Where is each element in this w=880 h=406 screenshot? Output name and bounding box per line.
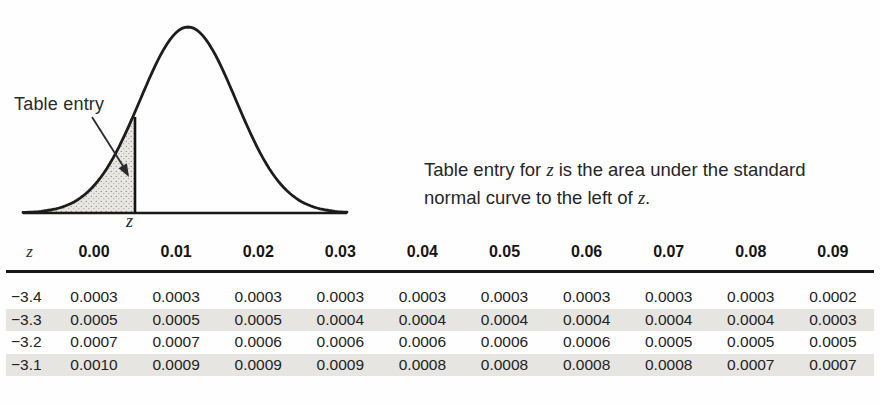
probability-cell: 0.0004 [710,309,792,332]
probability-cell: 0.0008 [546,354,628,377]
probability-cell: 0.0007 [792,354,874,377]
probability-cell: 0.0009 [299,354,381,377]
probability-cell: 0.0003 [546,272,628,309]
z-table-container: z 0.00 0.01 0.02 0.03 0.04 0.05 0.06 0.0… [6,240,874,376]
column-header: 0.07 [628,240,710,272]
caption-text: . [645,187,650,208]
probability-cell: 0.0009 [217,354,299,377]
table-caption: Table entry for z is the area under the … [424,156,806,212]
probability-cell: 0.0002 [792,272,874,309]
z-table: z 0.00 0.01 0.02 0.03 0.04 0.05 0.06 0.0… [6,240,874,376]
column-header: 0.04 [381,240,463,272]
probability-cell: 0.0003 [463,272,545,309]
probability-cell: 0.0007 [135,331,217,354]
caption-text: Table entry for [424,159,546,180]
header-row: z 0.00 0.01 0.02 0.03 0.04 0.05 0.06 0.0… [6,240,874,272]
probability-cell: 0.0008 [381,354,463,377]
z-axis-label: z [126,211,133,232]
z-value-cell: −3.4 [6,272,53,309]
probability-cell: 0.0008 [463,354,545,377]
probability-cell: 0.0006 [463,331,545,354]
page: Table entry z Table entry for z is the a… [0,0,880,406]
probability-cell: 0.0009 [135,354,217,377]
column-header: 0.00 [53,240,135,272]
probability-cell: 0.0007 [710,354,792,377]
probability-cell: 0.0005 [135,309,217,332]
z-value-cell: −3.1 [6,354,53,377]
probability-cell: 0.0003 [135,272,217,309]
probability-cell: 0.0003 [628,272,710,309]
probability-cell: 0.0003 [792,309,874,332]
annotation-arrow [92,117,123,166]
table-row: −3.20.00070.00070.00060.00060.00060.0006… [6,331,874,354]
z-value-cell: −3.2 [6,331,53,354]
caption-z-symbol: z [638,188,645,208]
column-header: 0.02 [217,240,299,272]
probability-cell: 0.0006 [546,331,628,354]
probability-cell: 0.0006 [381,331,463,354]
column-header: 0.01 [135,240,217,272]
probability-cell: 0.0004 [463,309,545,332]
probability-cell: 0.0003 [217,272,299,309]
probability-cell: 0.0005 [53,309,135,332]
probability-cell: 0.0005 [710,331,792,354]
probability-cell: 0.0005 [792,331,874,354]
probability-cell: 0.0008 [628,354,710,377]
table-row: −3.10.00100.00090.00090.00090.00080.0008… [6,354,874,377]
probability-cell: 0.0005 [217,309,299,332]
probability-cell: 0.0005 [628,331,710,354]
probability-cell: 0.0004 [628,309,710,332]
table-entry-annotation: Table entry [14,94,104,115]
column-header: 0.06 [546,240,628,272]
caption-text: normal curve to the left of [424,187,638,208]
column-header: 0.05 [463,240,545,272]
probability-cell: 0.0006 [299,331,381,354]
table-row: −3.30.00050.00050.00050.00040.00040.0004… [6,309,874,332]
probability-cell: 0.0010 [53,354,135,377]
probability-cell: 0.0004 [381,309,463,332]
probability-cell: 0.0003 [53,272,135,309]
probability-cell: 0.0003 [381,272,463,309]
probability-cell: 0.0004 [299,309,381,332]
probability-cell: 0.0003 [710,272,792,309]
caption-z-symbol: z [546,160,553,180]
column-header: 0.08 [710,240,792,272]
column-header: 0.03 [299,240,381,272]
z-value-cell: −3.3 [6,309,53,332]
table-row: −3.40.00030.00030.00030.00030.00030.0003… [6,272,874,309]
probability-cell: 0.0003 [299,272,381,309]
z-column-header: z [6,240,53,272]
probability-cell: 0.0007 [53,331,135,354]
normal-curve-plot [0,0,420,240]
probability-cell: 0.0006 [217,331,299,354]
normal-curve-figure: Table entry z [0,0,420,240]
shaded-tail-area [32,112,135,213]
normal-curve-line [23,27,347,213]
caption-text: is the area under the standard [554,159,806,180]
probability-cell: 0.0004 [546,309,628,332]
column-header: 0.09 [792,240,874,272]
